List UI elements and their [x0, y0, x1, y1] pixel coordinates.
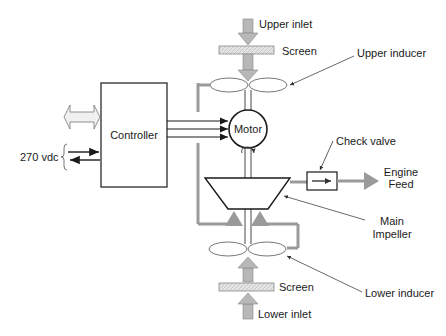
upper-inlet-arrow-icon: [238, 19, 258, 45]
upper-inducer-label: Upper inducer: [357, 47, 426, 59]
upper-screen-label: Screen: [282, 45, 317, 57]
lower-screen: [219, 283, 274, 291]
lower-inducer-label: Lower inducer: [365, 287, 434, 299]
power-brace: [61, 144, 67, 170]
controller-label: Controller: [110, 129, 158, 141]
main-impeller-label-line2: Impeller: [372, 228, 411, 240]
engine-feed-label-line1: Engine: [384, 166, 418, 178]
lower-inducer: [209, 242, 286, 256]
main-impeller-label-line1: Main: [380, 215, 404, 227]
check-valve-label: Check valve: [336, 135, 396, 147]
engine-feed-label-line2: Feed: [388, 178, 413, 190]
controller-motor-leads: [167, 121, 228, 137]
upper-flow-arrow-icon: [238, 54, 258, 81]
data-link-bidirectional-arrow-icon: [64, 105, 100, 129]
upper-screen: [219, 46, 274, 54]
lower-screen-label: Screen: [279, 281, 314, 293]
check-valve-pointer: [320, 141, 333, 170]
motor-label: Motor: [234, 123, 262, 135]
pump-diagram: Upper inlet Screen Upper inducer Motor C…: [0, 0, 446, 336]
lower-inlet-arrow-icon: [238, 293, 258, 319]
upper-inlet-label: Upper inlet: [259, 18, 312, 30]
main-impeller-pointer: [284, 196, 365, 220]
main-impeller: [205, 178, 290, 209]
upper-inducer-pointer: [290, 56, 354, 85]
power-input-label: 270 vdc: [20, 151, 59, 163]
lower-inlet-label: Lower inlet: [258, 308, 311, 320]
lower-flow-arrow-icon: [238, 257, 258, 282]
